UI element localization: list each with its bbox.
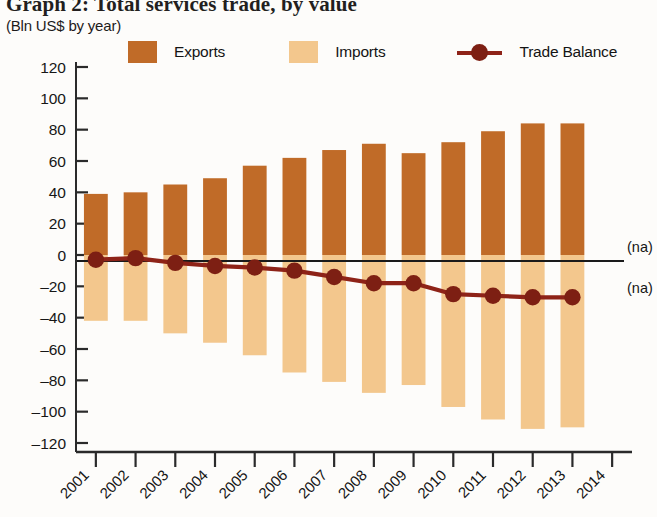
bar-exports[interactable]	[322, 150, 346, 255]
x-tick-label: 2007	[295, 466, 331, 502]
bar-exports[interactable]	[441, 142, 465, 255]
x-tick-label: 2003	[136, 466, 172, 502]
na-label-upper: (na)	[627, 239, 653, 255]
y-tick-label: –60	[40, 341, 66, 358]
chart-plot-area: 120100806040200–20–40–60–80–100–120 2001…	[0, 0, 657, 517]
x-tick-label: 2011	[454, 466, 489, 501]
bar-exports[interactable]	[362, 144, 386, 255]
x-tick-label: 2014	[573, 466, 609, 502]
x-tick-label: 2008	[334, 466, 370, 502]
bar-exports[interactable]	[561, 123, 585, 255]
bar-imports[interactable]	[441, 255, 465, 407]
y-tick-label: 40	[49, 184, 67, 201]
y-tick-label: 20	[49, 215, 67, 232]
trade-balance-point[interactable]	[247, 259, 263, 275]
x-tick-label: 2005	[215, 466, 251, 502]
x-tick-label: 2013	[533, 466, 569, 502]
bar-imports[interactable]	[521, 255, 545, 429]
trade-balance-point[interactable]	[445, 286, 461, 302]
x-tick-label: 2012	[493, 466, 529, 502]
trade-balance-point[interactable]	[167, 255, 183, 271]
bar-exports[interactable]	[84, 194, 108, 255]
bar-exports[interactable]	[124, 192, 148, 255]
trade-balance-point[interactable]	[286, 262, 302, 278]
trade-balance-point[interactable]	[326, 269, 342, 285]
bar-imports[interactable]	[481, 255, 505, 420]
na-annotations: (na)(na)	[627, 239, 653, 296]
trade-balance-point[interactable]	[525, 289, 541, 305]
bar-exports[interactable]	[243, 166, 267, 255]
bar-exports[interactable]	[521, 123, 545, 255]
chart-svg: 120100806040200–20–40–60–80–100–120 2001…	[0, 0, 657, 517]
y-tick-label: –100	[32, 403, 67, 420]
x-tick-label: 2006	[255, 466, 291, 502]
y-tick-label: –20	[40, 278, 66, 295]
x-axis-tick-labels: 2001200220032004200520062007200820092010…	[56, 466, 608, 502]
trade-balance-point[interactable]	[127, 250, 143, 266]
bar-exports[interactable]	[481, 131, 505, 255]
trade-balance-point[interactable]	[564, 289, 580, 305]
y-axis-tick-labels: 120100806040200–20–40–60–80–100–120	[32, 59, 67, 452]
y-tick-label: 0	[57, 247, 66, 264]
x-axis-ticks	[96, 452, 612, 467]
bar-exports[interactable]	[203, 178, 227, 255]
trade-balance-point[interactable]	[366, 275, 382, 291]
y-tick-label: 100	[40, 90, 66, 107]
trade-balance-point[interactable]	[485, 288, 501, 304]
bar-imports[interactable]	[561, 255, 585, 427]
bar-exports[interactable]	[283, 158, 307, 255]
y-tick-label: 80	[49, 121, 67, 138]
trade-balance-point[interactable]	[207, 258, 223, 274]
trade-balance-point[interactable]	[88, 252, 104, 268]
y-tick-label: 60	[49, 153, 67, 170]
bar-imports[interactable]	[402, 255, 426, 385]
x-tick-label: 2010	[414, 466, 450, 502]
x-tick-label: 2002	[96, 466, 132, 502]
bar-exports[interactable]	[402, 153, 426, 255]
x-tick-label: 2004	[176, 466, 212, 502]
y-tick-label: –40	[40, 309, 66, 326]
y-tick-label: –120	[32, 435, 67, 452]
y-tick-label: 120	[40, 59, 66, 76]
bars-exports	[84, 123, 584, 255]
bar-exports[interactable]	[163, 185, 187, 256]
y-tick-label: –80	[40, 372, 66, 389]
na-label-lower: (na)	[627, 280, 653, 296]
x-tick-label: 2009	[374, 466, 410, 502]
x-tick-label: 2001	[56, 466, 92, 502]
trade-balance-point[interactable]	[405, 275, 421, 291]
